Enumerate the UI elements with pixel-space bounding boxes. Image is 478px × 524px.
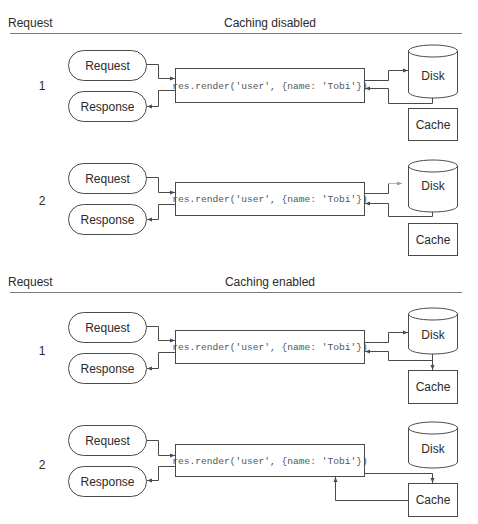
response-label: Response <box>80 100 134 114</box>
section-title: Caching enabled <box>225 275 315 289</box>
row-2: 2 Request Response res.render('user', {n… <box>39 160 458 256</box>
render-call-code: res.render('user', {name: 'Tobi'}) <box>172 81 368 92</box>
response-arrow <box>147 205 176 220</box>
disk-cylinder: Disk <box>409 308 458 354</box>
row-number: 2 <box>39 458 46 472</box>
disk-label: Disk <box>421 69 445 83</box>
disk-cylinder: Disk <box>409 160 458 212</box>
cache-to-render-arrow <box>336 477 409 501</box>
request-arrow <box>147 65 176 79</box>
render-to-disk-arrow <box>365 333 409 343</box>
render-call-code: res.render('user', {name: 'Tobi'}) <box>172 456 368 467</box>
section-caching-enabled: Request Caching enabled 1 Request Respon… <box>8 275 462 517</box>
cache-label: Cache <box>416 380 451 394</box>
render-call-code: res.render('user', {name: 'Tobi'}) <box>172 342 368 353</box>
request-label: Request <box>85 434 130 448</box>
cache-label: Cache <box>416 233 451 247</box>
caching-diagram: Request Caching disabled 1 Request Respo… <box>0 0 478 524</box>
request-label: Request <box>85 321 130 335</box>
request-arrow <box>147 178 176 193</box>
section-caching-disabled: Request Caching disabled 1 Request Respo… <box>8 16 462 256</box>
row-1: 1 Request Response res.render('user', {n… <box>39 45 458 141</box>
disk-label: Disk <box>421 442 445 456</box>
response-label: Response <box>80 362 134 376</box>
request-label: Request <box>85 59 130 73</box>
response-arrow <box>147 353 176 369</box>
disk-cylinder: Disk <box>409 45 458 98</box>
render-to-disk-arrow <box>365 184 389 194</box>
column-header-request: Request <box>8 275 53 289</box>
row-number: 1 <box>39 79 46 93</box>
row-1: 1 Request Response res.render('user', {n… <box>39 308 458 404</box>
response-label: Response <box>80 475 134 489</box>
row-number: 2 <box>39 194 46 208</box>
render-to-cache-arrow <box>365 474 433 484</box>
cache-label: Cache <box>416 493 451 507</box>
response-arrow <box>147 467 176 481</box>
render-call-code: res.render('user', {name: 'Tobi'}) <box>172 194 368 205</box>
disk-cylinder: Disk <box>409 422 458 468</box>
section-title: Caching disabled <box>224 16 316 30</box>
disk-label: Disk <box>421 179 445 193</box>
cache-label: Cache <box>416 118 451 132</box>
request-label: Request <box>85 172 130 186</box>
response-arrow <box>147 91 176 107</box>
request-arrow <box>147 441 176 456</box>
disk-label: Disk <box>421 328 445 342</box>
response-label: Response <box>80 213 134 227</box>
row-number: 1 <box>39 344 46 358</box>
column-header-request: Request <box>8 16 53 30</box>
request-arrow <box>147 327 176 341</box>
row-2: 2 Request Response res.render('user', {n… <box>39 422 458 517</box>
render-to-disk-arrow <box>365 71 409 81</box>
